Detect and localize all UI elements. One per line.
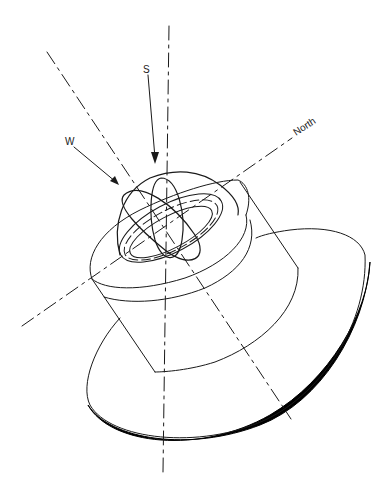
body-bottom-arc (155, 268, 298, 372)
west-arrow-icon (110, 176, 119, 185)
body-left-edge (92, 279, 155, 372)
inner-ring (109, 180, 232, 276)
west-arrow-shaft (74, 147, 116, 182)
axes (22, 26, 292, 472)
label-west: W (65, 136, 75, 147)
ring-outer (109, 180, 232, 276)
instrument-diagram: S W North (0, 0, 387, 487)
label-north: North (291, 115, 317, 138)
collar-lower-arc-2 (104, 220, 252, 301)
collar-top-ellipse (90, 180, 249, 279)
collar (90, 180, 252, 301)
tilted-axis (47, 52, 291, 419)
south-arrow-shaft (148, 75, 155, 158)
label-south: S (143, 64, 150, 75)
flange-rim (88, 262, 370, 440)
south-arrow-icon (151, 152, 159, 164)
cylindrical-body (92, 182, 298, 372)
direction-arrows (74, 75, 159, 185)
